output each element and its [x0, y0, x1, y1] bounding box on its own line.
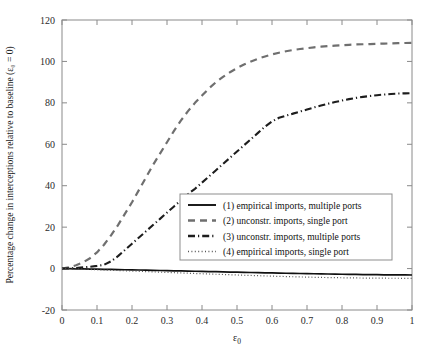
x-tick-label: 1 [410, 315, 415, 326]
y-tick-label: 60 [45, 139, 55, 150]
x-tick-label: 0.9 [371, 315, 384, 326]
chart-plot-area: -2002040608010012000.10.20.30.40.50.60.7… [0, 0, 431, 354]
x-tick-label: 0.7 [301, 315, 314, 326]
x-tick-label: 0.6 [266, 315, 279, 326]
y-tick-label: 100 [40, 56, 55, 67]
plot-frame [62, 20, 412, 310]
y-tick-label: 80 [45, 97, 55, 108]
x-tick-label: 0.4 [196, 315, 209, 326]
legend-label-2: (2) unconstr. imports, single port [223, 216, 348, 227]
x-tick-label: 0.2 [126, 315, 139, 326]
x-axis-title: ε0 [233, 332, 241, 346]
chart-figure: -2002040608010012000.10.20.30.40.50.60.7… [0, 0, 431, 354]
series-line-1 [62, 269, 412, 275]
x-tick-label: 0.5 [231, 315, 244, 326]
x-tick-label: 0 [60, 315, 65, 326]
y-tick-label: 120 [40, 15, 55, 26]
y-tick-label: 0 [50, 263, 55, 274]
x-tick-label: 0.8 [336, 315, 349, 326]
y-tick-label: 20 [45, 222, 55, 233]
legend-label-1: (1) empirical imports, multiple ports [223, 201, 362, 212]
x-tick-label: 0.3 [161, 315, 174, 326]
legend-label-3: (3) unconstr. imports, multiple ports [223, 232, 361, 243]
y-tick-label: 40 [45, 180, 55, 191]
legend-label-4: (4) empirical imports, single port [223, 247, 349, 258]
y-tick-label: -20 [42, 305, 55, 316]
x-tick-label: 0.1 [91, 315, 104, 326]
y-axis-title: Percentage change in interceptions relat… [5, 46, 16, 283]
